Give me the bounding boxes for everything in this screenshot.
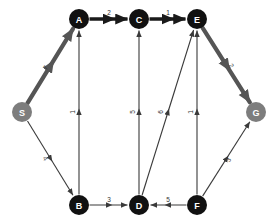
node-label-b: B: [76, 201, 83, 211]
graph-edge-direction-tick: [50, 65, 51, 66]
edge-weight-label-b-a: 1: [69, 110, 76, 114]
edge-weight-label-f-e: 1: [187, 110, 194, 114]
node-label-s: S: [19, 108, 25, 118]
node-label-d: D: [136, 201, 143, 211]
graph-node-c[interactable]: C: [129, 9, 149, 29]
graph-edge-direction-tick: [226, 65, 227, 66]
edge-weight-label-a-c: 2: [107, 9, 111, 16]
graph-node-f[interactable]: F: [187, 195, 207, 215]
graph-node-e[interactable]: E: [187, 9, 207, 29]
edge-weight-label-d-c: 5: [129, 110, 136, 114]
edge-weight-label-b-d: 3: [107, 196, 111, 203]
graph-node-s[interactable]: S: [12, 102, 32, 122]
graph-svg: 721241356513 SACEGBDF: [0, 0, 278, 223]
node-label-a: A: [76, 15, 83, 25]
edge-weight-label-f-d: 5: [166, 196, 170, 203]
graph-node-b[interactable]: B: [69, 195, 89, 215]
graph-node-a[interactable]: A: [69, 9, 89, 29]
edge-weight-label-d-e: 6: [157, 110, 164, 114]
node-label-f: F: [194, 201, 200, 211]
edge-weight-label-s-b: 4: [42, 155, 50, 162]
graph-node-g[interactable]: G: [246, 102, 266, 122]
edge-weight-label-f-g: 3: [224, 156, 232, 163]
graph-node-d[interactable]: D: [129, 195, 149, 215]
node-label-e: E: [194, 15, 200, 25]
node-label-c: C: [136, 15, 143, 25]
node-label-g: G: [252, 108, 259, 118]
edge-weight-label-c-e: 1: [166, 9, 170, 16]
graph-diagram-canvas: 721241356513 SACEGBDF: [0, 0, 278, 223]
edges-layer: [27, 19, 249, 205]
